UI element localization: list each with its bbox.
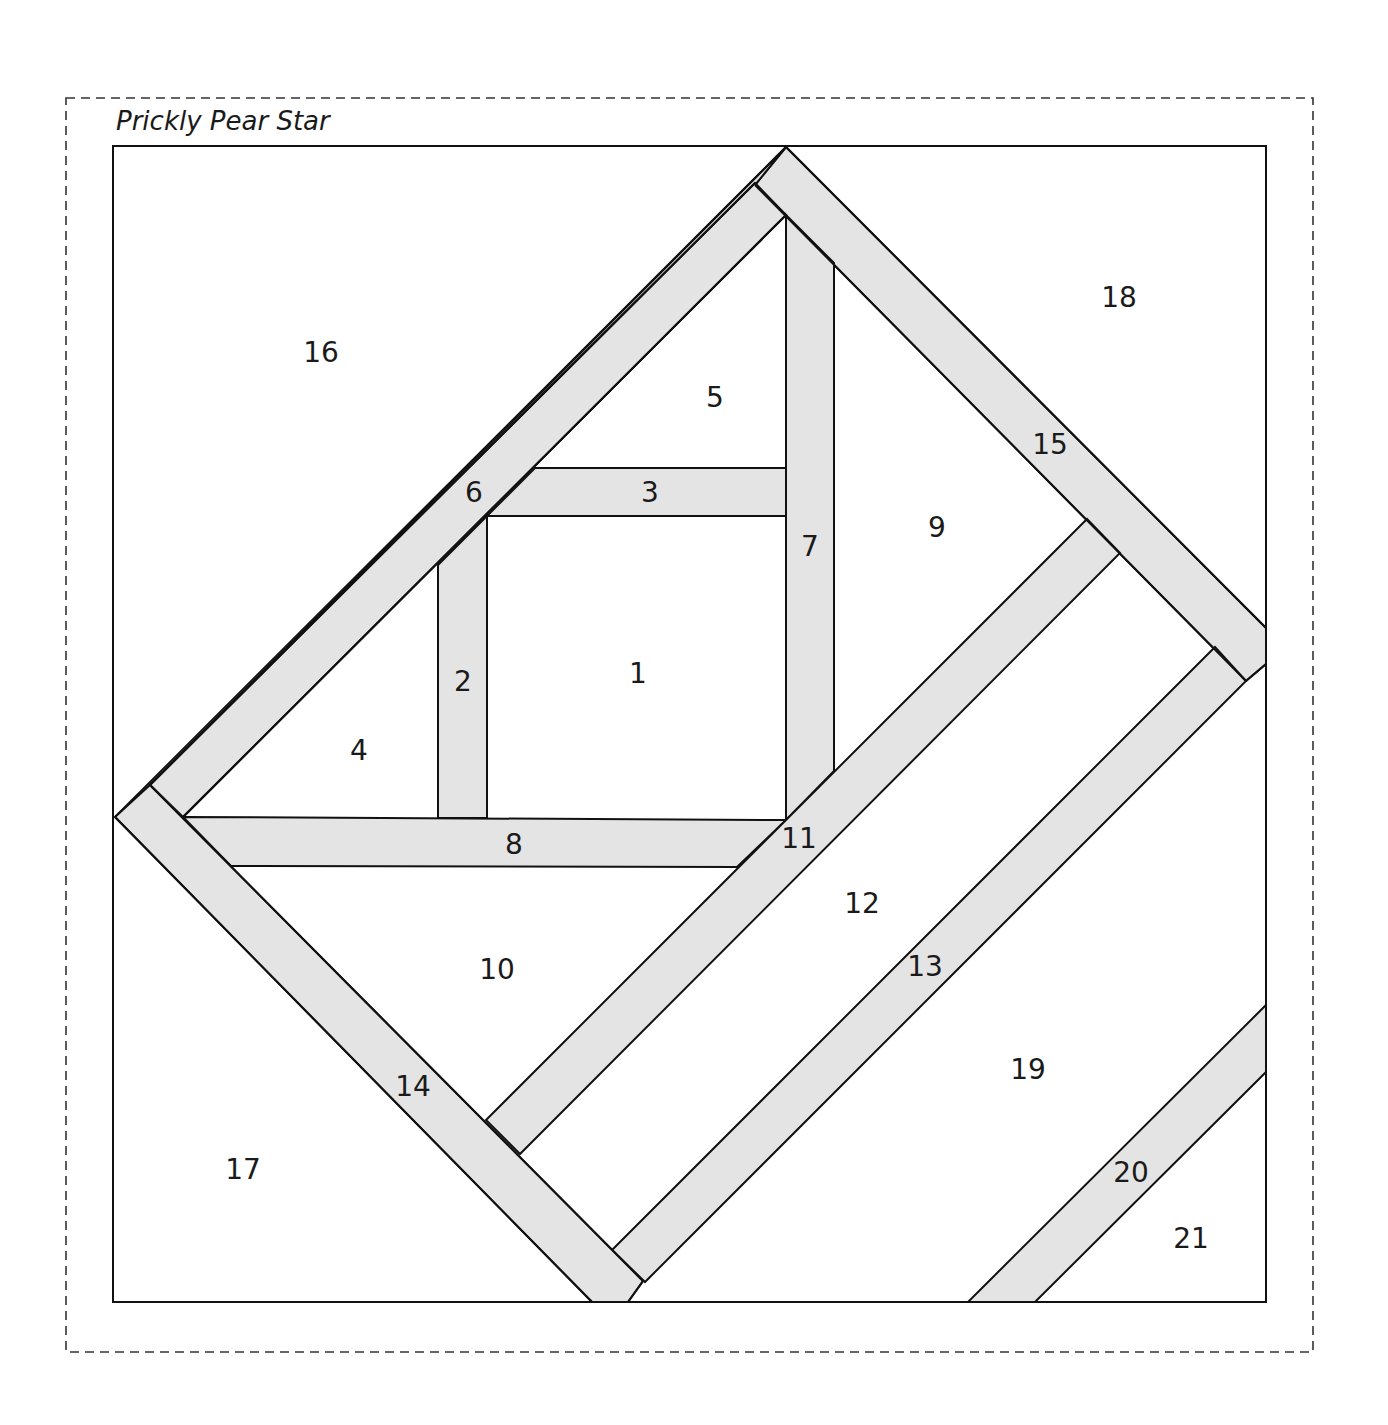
piece-label-11: 11 bbox=[781, 822, 817, 855]
piece-label-19: 19 bbox=[1010, 1053, 1046, 1086]
piece-label-12: 12 bbox=[844, 887, 880, 920]
piece-label-3: 3 bbox=[641, 476, 659, 509]
piece-label-15: 15 bbox=[1032, 428, 1068, 461]
piece-label-16: 16 bbox=[303, 336, 339, 369]
piece-label-5: 5 bbox=[706, 381, 724, 414]
pattern-title: Prickly Pear Star bbox=[116, 106, 332, 136]
piece-label-21: 21 bbox=[1173, 1222, 1209, 1255]
piece-label-13: 13 bbox=[907, 950, 943, 983]
piece-7-strip bbox=[786, 215, 834, 820]
piece-label-18: 18 bbox=[1101, 281, 1137, 314]
seam-line bbox=[115, 817, 592, 1302]
piece-label-2: 2 bbox=[454, 665, 472, 698]
piece-label-9: 9 bbox=[928, 511, 946, 544]
piece-label-8: 8 bbox=[505, 828, 523, 861]
piece-label-4: 4 bbox=[350, 734, 368, 767]
piece-label-14: 14 bbox=[395, 1070, 431, 1103]
piece-8-strip bbox=[183, 817, 786, 867]
block-outline bbox=[113, 146, 1266, 1302]
seam-line bbox=[786, 147, 1266, 628]
piece-label-20: 20 bbox=[1113, 1156, 1149, 1189]
piece-label-6: 6 bbox=[465, 476, 483, 509]
piece-label-17: 17 bbox=[225, 1153, 261, 1186]
piece-label-10: 10 bbox=[479, 953, 515, 986]
piece-3-strip bbox=[487, 468, 786, 516]
piece-label-1: 1 bbox=[629, 657, 647, 690]
piece-20-strip bbox=[968, 1005, 1266, 1302]
piece-label-7: 7 bbox=[801, 530, 819, 563]
pattern-diagram: Prickly Pear Star 1 2 3 4 5 6 7 8 9 10 bbox=[0, 0, 1388, 1425]
piece-labels: 1 2 3 4 5 6 7 8 9 10 11 12 13 14 15 16 1… bbox=[225, 281, 1209, 1255]
